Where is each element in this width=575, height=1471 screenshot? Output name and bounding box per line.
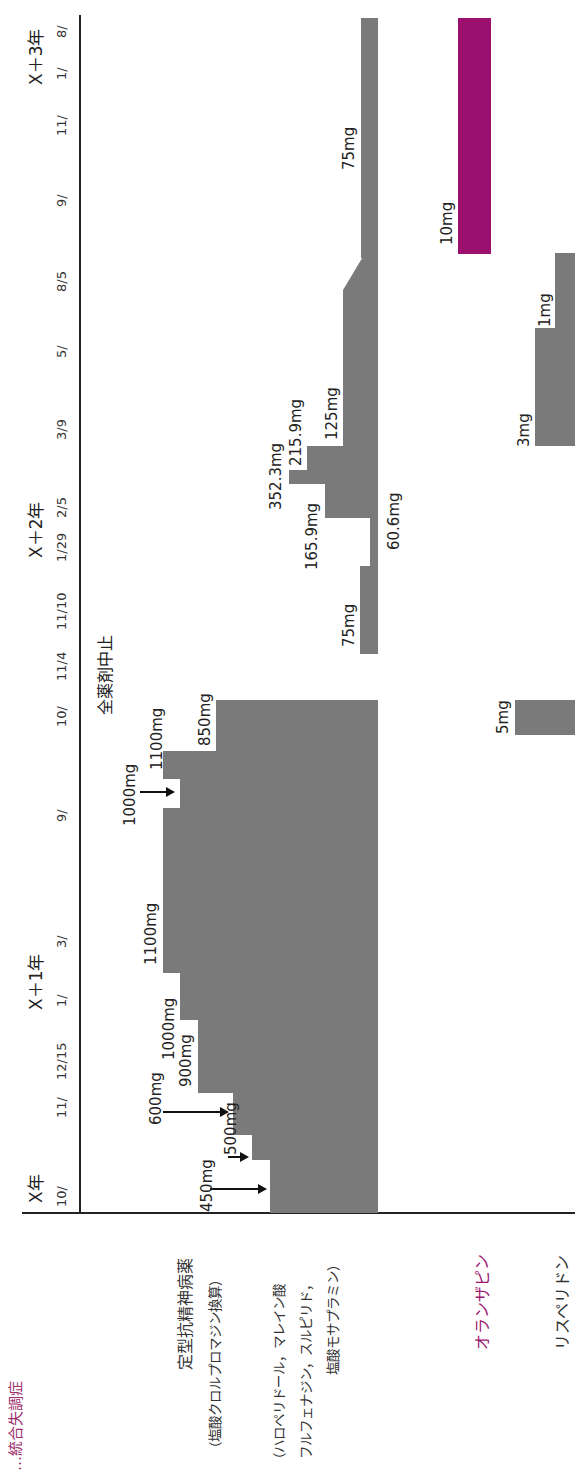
tick-label: 11/4 (54, 652, 69, 681)
risperidone-bar-3 (535, 328, 575, 446)
tick-label: 11/ (54, 1097, 69, 1118)
risperidone-label: リスペリドン (549, 1255, 573, 1350)
dose-label: 75mg (340, 127, 358, 170)
dose-label: 75mg (340, 604, 358, 647)
dose-label: 1000mg (121, 764, 139, 826)
typical-bar-450 (270, 1160, 378, 1213)
dose-label: 215.9mg (287, 399, 305, 466)
typical-antipsychotic-sublabel: （塩酸クロルプロマジン換算） (204, 1273, 224, 1455)
dose-label: 3mg (515, 413, 533, 447)
dose-label: 1mg (536, 293, 554, 327)
dose-label: 352.3mg (267, 443, 285, 510)
typical-bar-75b (361, 18, 378, 258)
olanzapine-label: オランザピン (469, 1254, 493, 1350)
typical-drug-list-line1: （ハロペリドール，マレイン酸 (268, 1284, 288, 1466)
arrow-head-icon (240, 1152, 249, 1162)
tick-label: 1/ (54, 67, 69, 80)
typical-bar-125 (343, 290, 378, 446)
tick-label: 1/ (54, 994, 69, 1007)
dose-label: 165.9mg (303, 503, 321, 570)
year-label-x2: X＋2年 (22, 502, 47, 558)
olanzapine-bar-10 (458, 18, 491, 254)
dose-label: 1000mg (160, 998, 178, 1060)
year-label-x3: X＋3年 (22, 29, 47, 85)
dose-label: 900mg (177, 1034, 195, 1087)
typical-drug-list-line2: フルフェナジン，スルピリド， (295, 1278, 315, 1459)
typical-drug-list-line3: 塩酸モサプラミン） (322, 1258, 342, 1375)
year-label-x1: X＋1年 (22, 954, 47, 1010)
typical-bar-1100 (163, 808, 378, 973)
tick-label: 1/29 (54, 533, 69, 562)
dose-label: 60.6mg (385, 492, 403, 550)
tick-label: 3/ (54, 935, 69, 948)
typical-antipsychotic-label: 定型抗精神病薬 (172, 1258, 196, 1370)
tick-label: 5/ (54, 345, 69, 358)
typical-bar-1000 (180, 973, 378, 1020)
dose-label: 10mg (438, 202, 456, 245)
all-drugs-stopped-annotation: 全薬剤中止 (92, 635, 116, 715)
dose-label: 600mg (147, 1072, 165, 1125)
dose-label: 1100mg (142, 903, 160, 965)
year-label-x: X年 (22, 1174, 47, 1203)
tick-label: 11/10 (54, 593, 69, 630)
arrow-head-icon (258, 1184, 267, 1194)
tick-label: 10/ (54, 706, 69, 727)
dose-label: 1100mg (148, 708, 166, 770)
arrow-1000b (140, 791, 168, 793)
typical-bar-850 (216, 700, 378, 751)
tick-label: 9/ (54, 809, 69, 822)
typical-bar-352-3 (289, 470, 378, 484)
dose-label: 5mg (494, 700, 512, 734)
typical-bar-215-9 (307, 446, 378, 470)
typical-bar-600 (233, 1093, 378, 1135)
typical-bar-1100b (163, 751, 378, 779)
arrow-head-icon (166, 787, 175, 797)
tick-label: 9/ (54, 194, 69, 207)
dose-label: 450mg (198, 1159, 216, 1212)
tick-label: 8/5 (54, 271, 69, 292)
dose-label: 500mg (222, 1102, 240, 1155)
risperidone-bar-1 (555, 253, 575, 328)
tick-label: 11/ (54, 115, 69, 136)
dose-label: 125mg (323, 387, 341, 440)
tick-label: 3/9 (54, 419, 69, 440)
time-axis-line (79, 15, 81, 1213)
tick-label: 2/5 (54, 497, 69, 518)
typical-bar-1000b (180, 779, 378, 808)
typical-bar-60-6 (370, 518, 378, 566)
cut-title: …統合失調症 (4, 1381, 25, 1471)
typical-bar-500 (252, 1135, 378, 1160)
risperidone-bar-5 (515, 700, 575, 735)
typical-bar-75a (360, 566, 378, 654)
dose-label: 850mg (196, 693, 214, 746)
typical-bar-900 (198, 1020, 378, 1093)
arrow-600 (163, 1111, 221, 1113)
arrow-450 (210, 1188, 260, 1190)
tick-label: 8/ (54, 25, 69, 38)
tick-label: 12/15 (54, 1043, 69, 1080)
tick-label: 10/ (54, 1186, 69, 1207)
typical-bar-165-9 (325, 484, 378, 518)
typical-bar-taper (343, 255, 378, 290)
